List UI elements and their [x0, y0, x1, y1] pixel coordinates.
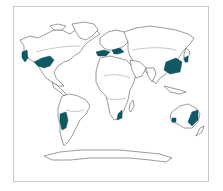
highlight-mediterranean: [96, 50, 110, 56]
antarctica: [44, 150, 172, 162]
arctic-islands: [50, 24, 66, 30]
madagascar: [129, 100, 134, 112]
highlight-west-coast-na: [22, 50, 28, 62]
highlight-southwest-australia: [172, 118, 176, 122]
southeast-asia-islands: [164, 86, 186, 94]
new-zealand: [196, 126, 204, 136]
world-map: [0, 0, 223, 191]
